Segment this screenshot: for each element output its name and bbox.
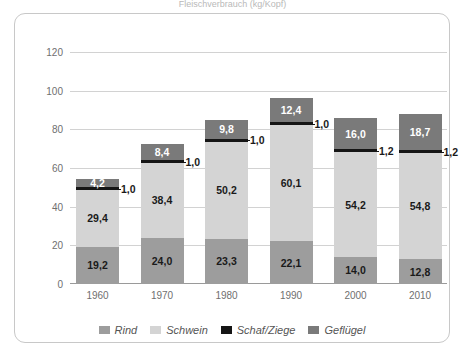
bar-1960[interactable]: 19,229,41,04,21960 xyxy=(76,179,119,284)
legend-item-schaf-ziege[interactable]: Schaf/Ziege xyxy=(221,324,296,336)
bar-segment-geflügel: 4,2 xyxy=(76,179,119,187)
grid-line xyxy=(70,52,447,53)
bar-segment-schaf-ziege: 1,0 xyxy=(270,122,313,125)
segment-value-label: 60,1 xyxy=(270,177,313,189)
legend-item-schwein[interactable]: Schwein xyxy=(150,324,208,336)
x-axis-tick-label: 1960 xyxy=(76,290,119,301)
bar-segment-geflügel: 16,0 xyxy=(334,118,377,149)
legend-label: Schaf/Ziege xyxy=(237,324,296,336)
x-axis-tick-label: 1990 xyxy=(270,290,313,301)
grid-line xyxy=(70,129,447,130)
bar-segment-schwein: 38,4 xyxy=(141,163,184,237)
y-axis-tick-label: 0 xyxy=(57,279,63,290)
segment-value-label: 29,4 xyxy=(76,212,119,224)
legend-swatch-icon xyxy=(221,326,232,334)
segment-value-label: 9,8 xyxy=(205,123,248,135)
bar-segment-schwein: 50,2 xyxy=(205,142,248,239)
segment-value-label: 54,2 xyxy=(334,199,377,211)
legend-swatch-icon xyxy=(99,326,110,334)
legend-item-geflügel[interactable]: Geflügel xyxy=(308,324,365,336)
x-axis-line xyxy=(70,283,447,284)
x-axis-tick-label: 2000 xyxy=(334,290,377,301)
legend-label: Rind xyxy=(115,324,138,336)
bar-segment-schaf-ziege: 1,0 xyxy=(141,160,184,163)
bar-1990[interactable]: 22,160,11,012,41990 xyxy=(270,98,313,284)
grid-line xyxy=(70,207,447,208)
y-axis-tick-label: 40 xyxy=(52,201,63,212)
bar-segment-rind: 23,3 xyxy=(205,239,248,284)
segment-value-label: 24,0 xyxy=(141,255,184,267)
bar-segment-schwein: 60,1 xyxy=(270,125,313,241)
segment-value-label: 23,3 xyxy=(205,255,248,267)
y-axis-tick-label: 80 xyxy=(52,124,63,135)
plot-area: 02040608010012019,229,41,04,2196024,038,… xyxy=(70,52,447,284)
bar-segment-rind: 12,8 xyxy=(399,259,442,284)
segment-value-label: 12,4 xyxy=(270,104,313,116)
bar-segment-rind: 14,0 xyxy=(334,257,377,284)
bar-segment-rind: 19,2 xyxy=(76,247,119,284)
segment-callout-label: 1,2 xyxy=(444,146,459,158)
chart-root: Fleischverbrauch (kg/Kopf) 0204060801001… xyxy=(0,0,465,362)
segment-callout-label: 1,0 xyxy=(250,134,265,146)
bar-segment-schaf-ziege: 1,2 xyxy=(334,149,377,152)
bar-segment-rind: 24,0 xyxy=(141,238,184,284)
bar-segment-schwein: 29,4 xyxy=(76,190,119,247)
bar-segment-schwein: 54,2 xyxy=(334,152,377,257)
chart-frame: 02040608010012019,229,41,04,2196024,038,… xyxy=(14,13,450,343)
bar-segment-schwein: 54,8 xyxy=(399,153,442,259)
bar-1970[interactable]: 24,038,41,08,41970 xyxy=(141,144,184,284)
y-axis-tick-label: 100 xyxy=(46,85,63,96)
bar-2010[interactable]: 12,854,81,218,72010 xyxy=(399,114,442,284)
segment-value-label: 8,4 xyxy=(141,146,184,158)
legend-swatch-icon xyxy=(308,326,319,334)
y-axis-tick-label: 60 xyxy=(52,163,63,174)
x-axis-tick-label: 2010 xyxy=(399,290,442,301)
bar-segment-geflügel: 18,7 xyxy=(399,114,442,150)
bar-2000[interactable]: 14,054,21,216,02000 xyxy=(334,118,377,284)
segment-callout-label: 1,0 xyxy=(315,118,330,130)
grid-line xyxy=(70,168,447,169)
chart-legend: RindSchweinSchaf/ZiegeGeflügel xyxy=(15,322,449,338)
x-axis-tick-label: 1980 xyxy=(205,290,248,301)
segment-value-label: 19,2 xyxy=(76,259,119,271)
y-axis-tick-label: 20 xyxy=(52,240,63,251)
segment-value-label: 16,0 xyxy=(334,128,377,140)
segment-value-label: 18,7 xyxy=(399,126,442,138)
clipped-title: Fleischverbrauch (kg/Kopf) xyxy=(0,0,465,9)
segment-value-label: 54,8 xyxy=(399,200,442,212)
bar-segment-geflügel: 9,8 xyxy=(205,120,248,139)
segment-value-label: 22,1 xyxy=(270,257,313,269)
segment-callout-label: 1,0 xyxy=(186,156,201,168)
segment-value-label: 12,8 xyxy=(399,266,442,278)
segment-value-label: 4,2 xyxy=(76,177,119,189)
segment-value-label: 14,0 xyxy=(334,264,377,276)
bar-1980[interactable]: 23,350,21,09,81980 xyxy=(205,120,248,284)
legend-label: Geflügel xyxy=(324,324,365,336)
bar-segment-geflügel: 12,4 xyxy=(270,98,313,122)
segment-callout-label: 1,0 xyxy=(121,183,136,195)
grid-line xyxy=(70,91,447,92)
legend-label: Schwein xyxy=(166,324,208,336)
bar-segment-rind: 22,1 xyxy=(270,241,313,284)
legend-swatch-icon xyxy=(150,326,161,334)
legend-item-rind[interactable]: Rind xyxy=(99,324,138,336)
grid-line xyxy=(70,245,447,246)
segment-value-label: 50,2 xyxy=(205,184,248,196)
segment-value-label: 38,4 xyxy=(141,194,184,206)
bar-segment-geflügel: 8,4 xyxy=(141,144,184,160)
bar-segment-schaf-ziege: 1,2 xyxy=(399,150,442,153)
segment-callout-label: 1,2 xyxy=(379,145,394,157)
bar-segment-schaf-ziege: 1,0 xyxy=(205,139,248,142)
y-axis-tick-label: 120 xyxy=(46,47,63,58)
x-axis-tick-label: 1970 xyxy=(141,290,184,301)
